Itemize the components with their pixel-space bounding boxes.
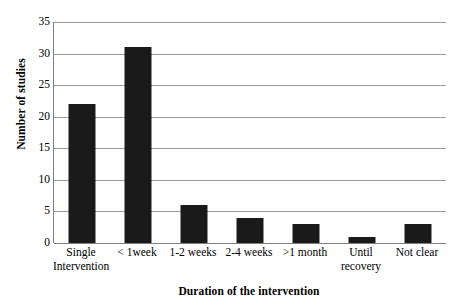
y-tick-label-25: 25 <box>22 79 50 91</box>
bar-slot <box>334 22 390 243</box>
y-tick-label-35: 35 <box>22 16 50 28</box>
bar-slot <box>390 22 446 243</box>
bar-slot <box>222 22 278 243</box>
y-tick-label-5: 5 <box>22 206 50 218</box>
bar[interactable] <box>293 224 320 243</box>
x-axis-title: Duration of the intervention <box>53 285 445 297</box>
bar[interactable] <box>237 218 264 243</box>
y-tick-label-10: 10 <box>22 174 50 186</box>
bar-series <box>54 22 446 243</box>
bar[interactable] <box>405 224 432 243</box>
bar-chart-figure: Number of studies 05101520253035 Single … <box>0 0 461 306</box>
gridline-0 <box>54 243 446 244</box>
x-tick-label: Not clear <box>389 246 445 260</box>
x-tick-label: < 1week <box>109 246 165 260</box>
y-tick-label-20: 20 <box>22 111 50 123</box>
bar[interactable] <box>69 104 96 243</box>
x-tick-label: >1 month <box>277 246 333 260</box>
x-tick-label: 1-2 weeks <box>165 246 221 260</box>
y-tick-label-30: 30 <box>22 48 50 60</box>
bar[interactable] <box>125 47 152 243</box>
x-tick-label: Single Intervention <box>53 246 109 273</box>
x-tick-label: Until recovery <box>333 246 389 273</box>
bar-slot <box>54 22 110 243</box>
bar[interactable] <box>349 237 376 243</box>
plot-area <box>53 22 445 243</box>
bar-slot <box>278 22 334 243</box>
y-tick-label-15: 15 <box>22 143 50 155</box>
y-axis-tick-labels: 05101520253035 <box>22 22 50 243</box>
bar-slot <box>110 22 166 243</box>
x-axis-tick-labels: Single Intervention< 1week1-2 weeks2-4 w… <box>53 246 445 280</box>
bar[interactable] <box>181 205 208 243</box>
x-tick-label: 2-4 weeks <box>221 246 277 260</box>
y-tick-label-0: 0 <box>22 237 50 249</box>
bar-slot <box>166 22 222 243</box>
